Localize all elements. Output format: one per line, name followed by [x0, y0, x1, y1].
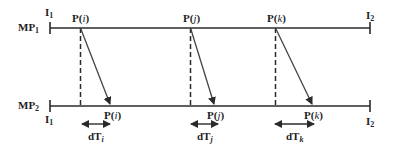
send-label-k: P(k) [267, 13, 286, 24]
delay-label-k: dTk [286, 131, 303, 144]
timing-diagram: I1 MP1 MP2 I1 I2 I2 P(i) P(j) P(k) P(i) … [0, 0, 393, 148]
recv-label-k: P(k) [304, 110, 323, 121]
mp1-label: MP1 [18, 22, 39, 35]
send-label-j: P(j) [183, 13, 200, 24]
recv-label-j: P(j) [207, 110, 224, 121]
mp2-start-label: I1 [45, 114, 53, 127]
delay-label-j: dTj [197, 131, 213, 144]
mp2-label: MP2 [18, 100, 39, 113]
transmission-arrow-j [191, 28, 215, 104]
mp2-end-label: I2 [366, 116, 374, 129]
mp1-end-label: I2 [366, 10, 374, 23]
mp1-start-label: I1 [45, 7, 53, 20]
transmission-arrow-k [276, 28, 313, 104]
timeline-mp1 [50, 22, 370, 34]
delay-label-i: dTi [88, 131, 104, 144]
recv-label-i: P(i) [104, 110, 121, 121]
transmission-arrow-i [81, 28, 111, 104]
send-label-i: P(i) [72, 13, 89, 24]
